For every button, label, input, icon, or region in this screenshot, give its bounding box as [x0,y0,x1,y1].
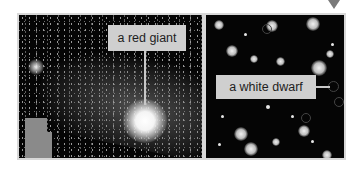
red-giant-photo: a red giant [19,15,202,158]
white-dwarf-label: a white dwarf [216,75,316,99]
star [306,17,320,31]
target-circle [334,97,344,107]
star [234,127,248,141]
white-dwarf-photo: a white dwarf [206,15,344,158]
star [244,33,247,36]
red-giant-star [123,99,167,143]
target-circle [301,113,311,123]
star [276,57,285,66]
star-cluster [28,59,44,75]
star [322,150,332,158]
star [218,143,221,146]
red-giant-label: a red giant [108,25,186,51]
star [326,50,334,58]
white-dwarf-pointer-line [316,86,330,88]
star [298,125,310,137]
star [311,140,314,143]
star [244,142,258,156]
star [272,138,280,146]
star [226,45,238,57]
star [214,20,224,30]
star [331,43,334,46]
redaction-block [25,132,52,158]
star [221,115,224,118]
star [291,115,294,118]
red-giant-pointer-line [144,51,146,105]
star [250,55,258,63]
target-circle [262,24,272,34]
star [311,60,327,76]
down-arrow-icon [328,0,340,9]
star [266,105,270,109]
